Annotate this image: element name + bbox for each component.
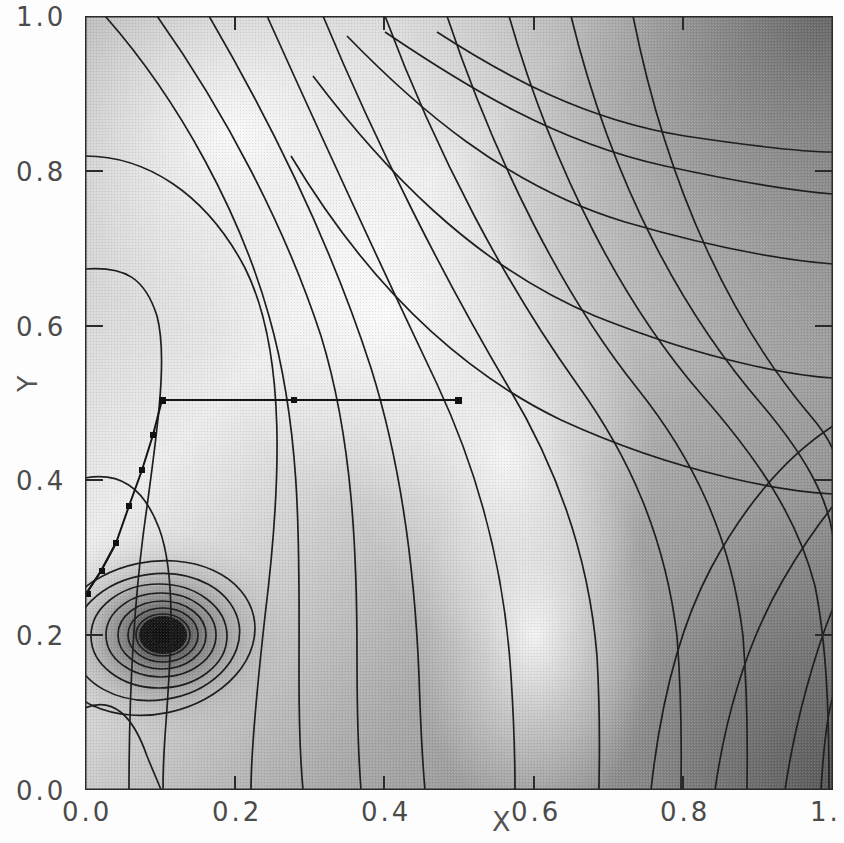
figure-root: 1.0 0.8 0.6 0.4 0.2 0.0 0.0 0.2 0.4 0.6 … — [0, 0, 844, 843]
x-axis-title: X — [492, 806, 511, 837]
y-tick-label-3: 0.6 — [16, 312, 66, 342]
y-axis-title: Y — [12, 376, 43, 393]
y-tick-label-1: 1.0 — [16, 2, 66, 32]
x-tick-label-2: 0.2 — [212, 797, 262, 827]
x-tick-label-6: 1. — [810, 797, 841, 827]
x-tick-label-3: 0.4 — [361, 797, 411, 827]
contour-plot-area — [85, 16, 833, 790]
y-tick-label-6: 0.0 — [16, 776, 66, 806]
contour-plot-svg — [85, 16, 833, 790]
x-tick-label-4: 0.6 — [511, 797, 561, 827]
y-tick-label-4: 0.4 — [16, 466, 66, 496]
y-tick-label-2: 0.8 — [16, 157, 66, 187]
x-tick-label-1: 0.0 — [62, 797, 112, 827]
y-tick-label-5: 0.2 — [16, 621, 66, 651]
x-tick-label-5: 0.8 — [660, 797, 710, 827]
